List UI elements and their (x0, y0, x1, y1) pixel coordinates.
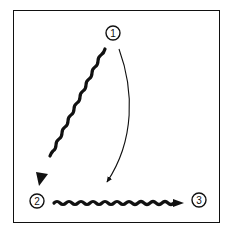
arrowhead-icon (36, 172, 48, 186)
node-3: 3 (192, 193, 206, 207)
edge-1-to-2-wavy-arrow (36, 49, 105, 186)
node-label: 3 (196, 195, 202, 206)
diagram-canvas: 1 2 3 (0, 0, 232, 237)
edge-1-thin-curved-arrow (107, 49, 129, 182)
node-2: 2 (30, 194, 44, 208)
edge-2-to-3-wavy-arrow (54, 199, 184, 207)
node-label: 2 (34, 196, 40, 207)
node-1: 1 (106, 26, 120, 40)
arrowhead-icon (173, 199, 184, 207)
node-label: 1 (110, 28, 116, 39)
